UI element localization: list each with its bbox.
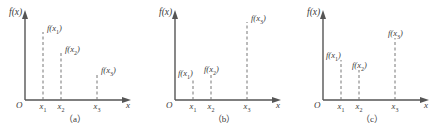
y-axis-label: f(x) <box>159 8 172 18</box>
tick-label-x3: x3 <box>244 102 251 113</box>
tick-label-x3: x3 <box>392 102 399 113</box>
panel-caption-c: （c） <box>297 115 446 124</box>
value-label-fx1: f(x1) <box>326 51 341 62</box>
value-label-fx1: f(x1) <box>47 24 62 35</box>
x-axis-label: x <box>276 101 280 110</box>
tick-label-x2: x2 <box>356 102 363 113</box>
origin-label: O <box>166 101 173 110</box>
plot-area-b: f(x) x O x1 x2 x3 f(x1) f(x2) f(x3) <box>149 0 299 112</box>
axes-svg-a <box>0 0 150 112</box>
figure-sheet: f(x) x O x1 x2 x3 f(x1) f(x2) f(x3) （a） … <box>0 0 446 139</box>
tick-label-x3: x3 <box>94 102 101 113</box>
plot-area-a: f(x) x O x1 x2 x3 f(x1) f(x2) f(x3) <box>0 0 150 112</box>
tick-label-x2: x2 <box>58 102 65 113</box>
origin-label: O <box>16 101 23 110</box>
origin-label: O <box>314 101 321 110</box>
chart-panel-b: f(x) x O x1 x2 x3 f(x1) f(x2) f(x3) （b） <box>149 0 299 139</box>
value-label-fx3: f(x3) <box>388 29 403 40</box>
y-axis-label: f(x) <box>9 8 22 18</box>
tick-label-x1: x1 <box>190 102 197 113</box>
panel-caption-b: （b） <box>149 115 299 124</box>
tick-label-x1: x1 <box>40 102 47 113</box>
tick-label-x2: x2 <box>208 102 215 113</box>
y-axis-label: f(x) <box>307 8 320 18</box>
value-label-fx2: f(x2) <box>204 65 219 76</box>
y-axis-arrow <box>320 10 326 19</box>
x-axis-label: x <box>126 101 130 110</box>
chart-panel-a: f(x) x O x1 x2 x3 f(x1) f(x2) f(x3) （a） <box>0 0 150 139</box>
chart-panel-c: f(x) x O x1 x2 x3 f(x1) f(x2) f(x3) （c） <box>297 0 446 139</box>
value-label-fx1: f(x1) <box>178 69 193 80</box>
y-axis-arrow <box>172 10 178 19</box>
x-axis-label: x <box>424 101 428 110</box>
value-label-fx2: f(x2) <box>352 61 367 72</box>
value-label-fx2: f(x2) <box>65 45 80 56</box>
y-axis-arrow <box>22 10 28 19</box>
panel-caption-a: （a） <box>0 115 150 124</box>
value-label-fx3: f(x3) <box>251 14 266 25</box>
plot-area-c: f(x) x O x1 x2 x3 f(x1) f(x2) f(x3) <box>297 0 446 112</box>
tick-label-x1: x1 <box>338 102 345 113</box>
value-label-fx3: f(x3) <box>101 66 116 77</box>
